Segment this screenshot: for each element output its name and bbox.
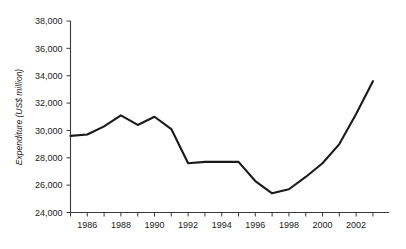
y-tick-label: 36,000 <box>35 44 63 54</box>
x-tick-label: 2000 <box>313 220 333 230</box>
expenditure-line-chart: 24,00026,00028,00030,00032,00034,00036,0… <box>0 0 406 249</box>
chart-container: 24,00026,00028,00030,00032,00034,00036,0… <box>0 0 406 249</box>
y-tick-label: 38,000 <box>35 16 63 26</box>
y-tick-label: 32,000 <box>35 98 63 108</box>
x-tick-label: 1988 <box>111 220 131 230</box>
x-tick-label: 1992 <box>178 220 198 230</box>
y-tick-label: 34,000 <box>35 71 63 81</box>
x-tick-label: 1986 <box>77 220 97 230</box>
x-tick-label: 1998 <box>279 220 299 230</box>
x-tick-label: 1994 <box>212 220 232 230</box>
x-tick-label: 2002 <box>346 220 366 230</box>
x-axis-tick-labels: 198619881990199219941996199820002002 <box>77 220 366 230</box>
y-tick-label: 28,000 <box>35 153 63 163</box>
x-tick-label: 1990 <box>144 220 164 230</box>
y-axis-title: Expenditure (US$ million) <box>14 69 24 166</box>
y-tick-label: 30,000 <box>35 126 63 136</box>
x-tick-label: 1996 <box>245 220 265 230</box>
y-tick-label: 26,000 <box>35 180 63 190</box>
y-tick-label: 24,000 <box>35 208 63 218</box>
